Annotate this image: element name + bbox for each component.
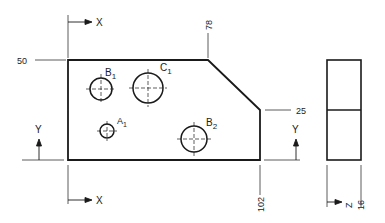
x-axis-bottom-label: X [96, 195, 103, 206]
x-axis-top-label: X [96, 17, 103, 28]
y-axis-left-label: Y [35, 124, 42, 135]
hole-b2-label: B2 [206, 117, 218, 131]
y-axis-right-label: Y [292, 124, 299, 135]
extension-lines [22, 15, 361, 207]
hole-c1-label: C1 [160, 62, 172, 76]
dim-16: 16 [356, 200, 366, 210]
dim-102: 102 [256, 197, 266, 212]
dim-25: 25 [296, 106, 306, 116]
technical-drawing: X X Y Y 50 25 78 102 Z 16 B1 C1 A1 B2 [0, 0, 385, 223]
hole-a1-label: A1 [117, 116, 127, 128]
dim-50: 50 [17, 56, 27, 66]
dim-78: 78 [204, 20, 214, 30]
drawing-canvas: X X Y Y 50 25 78 102 Z 16 B1 C1 A1 B2 [0, 0, 385, 223]
holes [90, 73, 207, 152]
center-marks [86, 69, 211, 156]
front-view-outline [68, 60, 260, 160]
z-axis-label: Z [344, 202, 354, 208]
